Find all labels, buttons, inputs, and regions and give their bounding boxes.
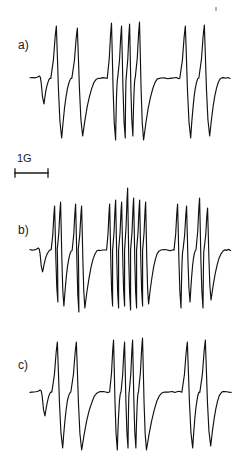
scale-bar: 1G: [13, 152, 73, 186]
epr-spectra-figure: a) b) c) 1G: [0, 0, 244, 466]
scale-bar-rule: [13, 168, 50, 179]
spectrum-trace-a: [0, 14, 244, 144]
scan-speck-artifact: [215, 7, 217, 11]
spectrum-trace-c: [0, 332, 244, 456]
spectrum-trace-b: [0, 186, 244, 314]
scale-bar-label: 1G: [17, 152, 32, 164]
